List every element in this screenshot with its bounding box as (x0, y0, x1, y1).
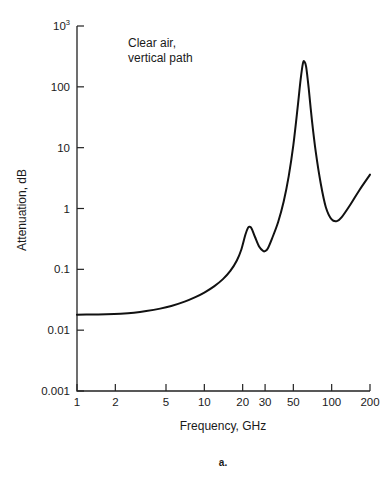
y-tick-label-6: 103 (53, 18, 70, 32)
x-axis-tick-labels: 12510203050100200 (74, 396, 380, 408)
y-tick-label-3: 1 (64, 203, 70, 215)
x-axis-title: Frequency, GHz (180, 419, 266, 433)
x-tick-label-7: 100 (322, 396, 341, 408)
y-tick-label-4: 10 (57, 142, 70, 154)
annotation-line-2: vertical path (128, 51, 193, 65)
annotation-line-1: Clear air, (128, 36, 176, 50)
y-tick-label-0: 0.001 (41, 385, 70, 397)
y-axis-title: Attenuation, dB (15, 169, 29, 251)
x-tick-label-6: 50 (287, 396, 300, 408)
x-tick-label-5: 30 (259, 396, 272, 408)
y-axis-tick-labels: 0.0010.010.1110100103 (41, 18, 70, 397)
y-tick-label-2: 0.1 (54, 263, 70, 275)
data-series-curve (77, 61, 370, 315)
y-tick-exponent: 3 (66, 18, 70, 27)
x-tick-label-8: 200 (360, 396, 379, 408)
x-tick-label-3: 10 (198, 396, 211, 408)
y-tick-label-1: 0.01 (48, 324, 70, 336)
x-axis-ticks (77, 384, 370, 391)
y-tick-label-5: 100 (51, 81, 70, 93)
x-tick-label-0: 1 (74, 396, 80, 408)
y-axis-ticks (77, 26, 84, 391)
attenuation-vs-frequency-chart: 0.0010.010.1110100103 12510203050100200 … (0, 0, 382, 483)
x-tick-label-2: 5 (163, 396, 169, 408)
figure-container: 0.0010.010.1110100103 12510203050100200 … (0, 0, 382, 483)
figure-label: a. (219, 457, 228, 468)
x-tick-label-1: 2 (112, 396, 118, 408)
x-tick-label-4: 20 (236, 396, 249, 408)
